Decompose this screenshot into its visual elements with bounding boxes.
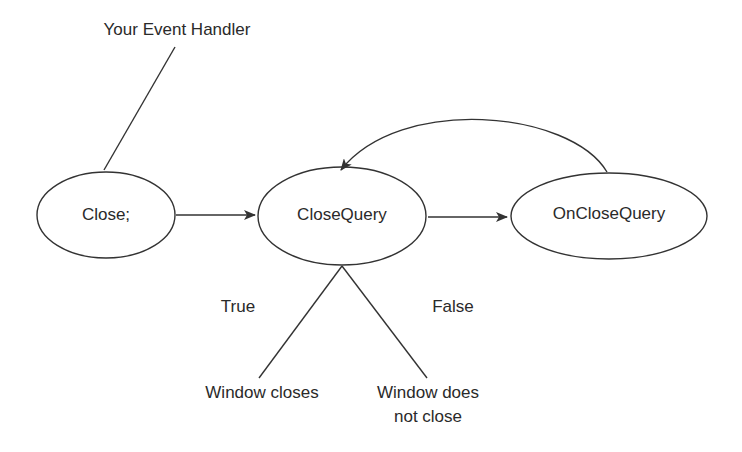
node-close-label: Close; [82, 205, 130, 225]
node-window-not-close-line1: Window does [377, 383, 479, 403]
node-closequery-label: CloseQuery [297, 205, 387, 225]
edge-true-branch [259, 266, 342, 378]
node-window-not-close-line2: not close [394, 407, 462, 427]
diagram-canvas [0, 0, 742, 452]
branch-label-true: True [221, 297, 255, 317]
branch-label-false: False [432, 297, 474, 317]
node-window-closes-label: Window closes [205, 383, 318, 403]
edge-handler-to-close [104, 47, 175, 170]
edge-onclosequery-to-closequery [341, 119, 607, 172]
edge-false-branch [342, 266, 427, 378]
node-onclosequery-label: OnCloseQuery [553, 204, 665, 224]
node-handler-label: Your Event Handler [104, 20, 251, 40]
